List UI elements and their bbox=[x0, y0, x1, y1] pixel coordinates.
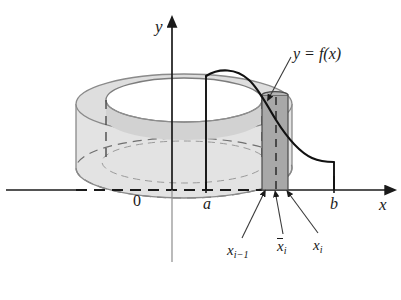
cylindrical-shell-figure: y x 0 a b y = f(x) xi−1 xi xi bbox=[0, 0, 401, 300]
label-x-bar-i: xi bbox=[277, 239, 287, 256]
label-x-i: xi bbox=[313, 238, 323, 255]
label-x-bar-i-base: x bbox=[277, 238, 284, 254]
shell-strip bbox=[262, 92, 288, 190]
leader-x-bar-i bbox=[276, 196, 283, 234]
label-x-bar-i-overline-group: x bbox=[277, 239, 284, 254]
curve-equation-label: y = f(x) bbox=[293, 46, 341, 62]
label-x-i-minus-1-subscript: i−1 bbox=[234, 249, 249, 260]
label-x-i-minus-1: xi−1 bbox=[227, 243, 248, 260]
label-x-bar-i-subscript: i bbox=[284, 245, 287, 256]
label-x-i-base: x bbox=[313, 237, 320, 253]
label-x-i-minus-1-base: x bbox=[227, 242, 234, 258]
overline-bar bbox=[277, 238, 283, 239]
origin-label: 0 bbox=[133, 193, 141, 209]
tick-label-b: b bbox=[330, 196, 338, 212]
leader-x-i-minus-1 bbox=[242, 195, 263, 238]
tick-label-a: a bbox=[203, 196, 211, 212]
shell-strip-top-cap bbox=[262, 92, 288, 95]
x-axis-label: x bbox=[379, 196, 387, 213]
leader-x-i bbox=[290, 195, 318, 233]
shell-strip-fill bbox=[262, 95, 288, 190]
label-x-i-subscript: i bbox=[320, 244, 323, 255]
y-axis-label: y bbox=[155, 18, 163, 35]
